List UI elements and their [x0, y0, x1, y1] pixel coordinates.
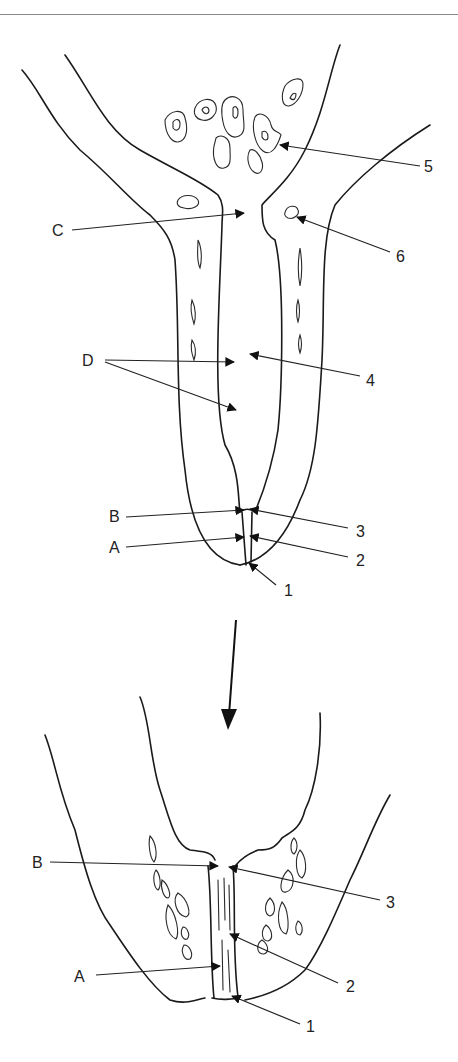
lower-cavities	[149, 836, 305, 959]
label-6: 6	[396, 248, 405, 265]
label-5: 5	[424, 158, 433, 175]
down-arrow-icon	[221, 620, 237, 730]
lower-panel: B A 3 2 1	[32, 697, 395, 1035]
leader-lower-A	[96, 966, 220, 975]
leader-D1	[105, 360, 234, 362]
central-line-left	[242, 512, 246, 565]
left-inner-contour	[65, 55, 240, 512]
leader-lower-B	[50, 862, 218, 866]
lower-right-inner	[236, 713, 320, 865]
label-D: D	[82, 352, 94, 369]
lower-left-outer	[45, 735, 205, 1002]
label-B: B	[109, 508, 120, 525]
leader-3	[250, 509, 348, 528]
diagram-canvas: C D B A 5 6 4 3 2 1	[0, 0, 458, 1062]
leader-4	[250, 354, 360, 376]
lower-left-inner	[140, 697, 215, 860]
leader-1	[249, 563, 276, 585]
leader-D2	[105, 362, 236, 410]
label-4: 4	[366, 372, 375, 389]
leader-6	[297, 217, 390, 252]
label-1: 1	[284, 582, 293, 599]
label-C: C	[52, 222, 64, 239]
label-lower-2: 2	[346, 978, 355, 995]
right-outer-contour	[240, 125, 430, 565]
pillar-left	[208, 866, 214, 998]
leader-B	[126, 510, 244, 517]
label-A: A	[109, 539, 120, 556]
upper-panel: C D B A 5 6 4 3 2 1	[22, 45, 433, 599]
label-2: 2	[356, 552, 365, 569]
label-lower-A: A	[74, 968, 85, 985]
leader-C	[72, 213, 244, 230]
leader-A	[126, 537, 244, 547]
right-inner-contour	[255, 45, 340, 512]
pillar-right	[233, 866, 238, 997]
label-lower-1: 1	[306, 1018, 315, 1035]
leader-lower-1	[232, 996, 300, 1024]
label-lower-3: 3	[386, 894, 395, 911]
label-lower-B: B	[32, 854, 43, 871]
leader-5	[280, 145, 420, 166]
label-3: 3	[356, 523, 365, 540]
leader-lower-3	[229, 867, 380, 900]
